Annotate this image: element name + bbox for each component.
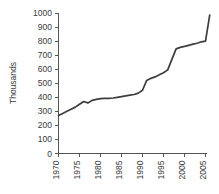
y-tick-label: 600 [38,64,52,74]
y-tick-label: 300 [38,106,52,116]
x-tick-label: 1970 [51,160,61,179]
y-axis-title: Thousands [8,62,18,104]
y-tick-label: 500 [38,78,52,88]
x-tick-label: 2005 [198,160,208,179]
x-tick-label: 2000 [177,160,187,179]
y-tick-label: 0 [47,149,52,159]
x-tick-label: 1995 [156,160,166,179]
x-tick-label: 1990 [135,160,145,179]
data-line-series-1 [59,15,210,115]
x-tick-label: 1980 [93,160,103,179]
x-axis-group: 19701975198019851990199520002005 [51,154,208,180]
y-axis-tick-labels: 01002003004005006007008009001000 [33,8,52,159]
y-axis-group: 01002003004005006007008009001000 Thousan… [8,8,59,159]
y-tick-label: 400 [38,92,52,102]
y-tick-label: 900 [38,22,52,32]
y-tick-label: 200 [38,120,52,130]
y-axis-ticks [55,13,59,154]
x-axis-tick-labels: 19701975198019851990199520002005 [51,160,208,179]
x-tick-label: 1985 [114,160,124,179]
y-tick-label: 700 [38,50,52,60]
line-chart: 01002003004005006007008009001000 Thousan… [0,0,219,194]
y-tick-label: 100 [38,134,52,144]
y-tick-label: 1000 [33,8,52,18]
x-axis-ticks [59,154,206,158]
x-tick-label: 1975 [72,160,82,179]
y-tick-label: 800 [38,36,52,46]
chart-canvas: 01002003004005006007008009001000 Thousan… [0,0,219,194]
plot-series-group [59,15,210,115]
